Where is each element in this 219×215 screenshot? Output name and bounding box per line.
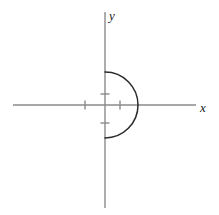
math-figure: y x [0, 0, 219, 215]
x-axis-label: x [200, 101, 206, 114]
y-axis-label: y [109, 9, 115, 22]
coordinate-plane-svg [0, 0, 219, 215]
